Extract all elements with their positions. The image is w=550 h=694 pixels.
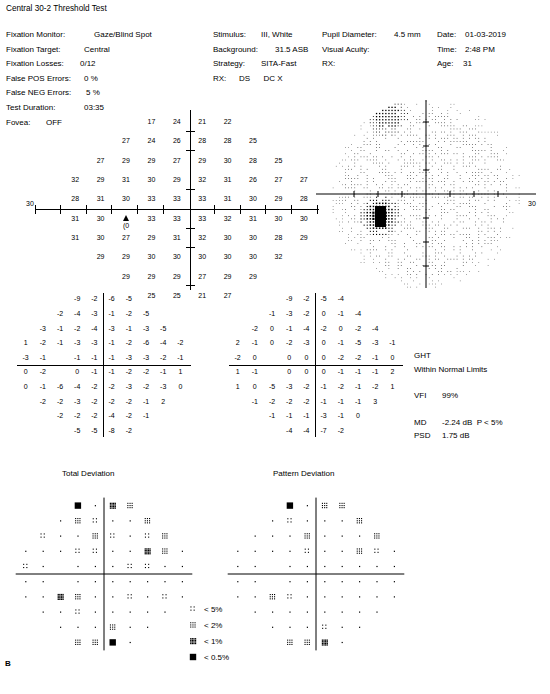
threshold-cell-r1-c4: 26 [169, 137, 185, 144]
param-left-label-3: False POS Errors: [6, 75, 71, 83]
td-cell-r3-c4: -3 [87, 339, 101, 346]
pd-cell-r2-c5: -2 [317, 325, 331, 332]
td-cell-r1-c5: -1 [105, 310, 119, 317]
param-mid-value-1: 31.5 ASB [275, 46, 308, 54]
pattern-deviation-label: Pattern Deviation [273, 470, 334, 478]
pd-cell-r1-c5: 0 [317, 310, 331, 317]
threshold-cell-r3-c7: 26 [245, 176, 261, 183]
td-cell-r7-c8: 2 [156, 398, 170, 405]
pd-cell-r6-c1: 0 [248, 383, 262, 390]
axis-tick-h-6 [214, 205, 215, 214]
td-cell-r3-c9: -2 [173, 339, 187, 346]
td-cell-r9-c4: -5 [87, 427, 101, 434]
td-cell-r6-c2: -6 [53, 383, 67, 390]
td-cell-r1-c3: -4 [70, 310, 84, 317]
td-cell-r5-c6: -2 [122, 368, 136, 375]
pd-cell-r7-c5: -1 [317, 398, 331, 405]
pd-cell-r2-c6: 0 [334, 325, 348, 332]
threshold-cell-r4-c5: 33 [194, 195, 210, 202]
td-cell-r3-c7: -6 [139, 339, 153, 346]
td-cell-r6-c4: -2 [87, 383, 101, 390]
td-cell-r8-c7: -1 [139, 412, 153, 419]
param-left-value-4: 5 % [86, 89, 100, 97]
td-cell-r3-c0: 1 [19, 339, 33, 346]
td-cell-r3-c5: -1 [105, 339, 119, 346]
pd-cell-r7-c2: -2 [265, 398, 279, 405]
threshold-cell-r5-c4: 33 [169, 215, 185, 222]
threshold-cell-r8-c7: 29 [245, 273, 261, 280]
td-cell-r1-c6: -2 [122, 310, 136, 317]
threshold-cell-r7-c2: 29 [118, 253, 134, 260]
pd-cell-r8-c6: -1 [334, 412, 348, 419]
pd-cell-r6-c9: 1 [385, 383, 399, 390]
threshold-cell-r3-c4: 29 [169, 176, 185, 183]
md-value: -2.24 dB P < 5% [442, 419, 503, 427]
threshold-cell-r6-c3: 29 [143, 234, 159, 241]
threshold-cell-r5-c5: 33 [194, 215, 210, 222]
threshold-cell-r7-c4: 30 [169, 253, 185, 260]
psd-label: PSD [414, 432, 430, 440]
threshold-cell-r2-c2: 29 [118, 157, 134, 164]
threshold-cell-r2-c4: 27 [169, 157, 185, 164]
threshold-cell-r5-c1: 30 [93, 215, 109, 222]
td-cell-r3-c2: -1 [53, 339, 67, 346]
param-mid-label-2: Strategy: [213, 60, 245, 68]
pd-cell-r2-c2: 0 [265, 325, 279, 332]
param-rb-label-1: Time: [437, 46, 457, 54]
legend-label-p1: < 1% [204, 638, 222, 646]
param-left-value-6: OFF [46, 119, 62, 127]
pd-cell-r9-c5: -7 [317, 427, 331, 434]
param-mid-label-0: Stimulus: [213, 31, 246, 39]
threshold-cell-r4-c8: 29 [270, 195, 286, 202]
td-cell-r4-c0: -3 [19, 354, 33, 361]
td-cell-r4-c6: -3 [122, 354, 136, 361]
threshold-cell-r4-c6: 31 [220, 195, 236, 202]
td-cell-r2-c4: -4 [87, 325, 101, 332]
td-cell-r0-c4: -2 [87, 295, 101, 302]
pd-cell-r6-c8: -2 [368, 383, 382, 390]
threshold-cell-r6-c6: 30 [220, 234, 236, 241]
threshold-cell-r1-c3: 24 [143, 137, 159, 144]
pd-cell-r8-c7: 0 [351, 412, 365, 419]
panel-letter: B [5, 660, 11, 668]
td-cell-r8-c3: -2 [70, 412, 84, 419]
td-cell-r2-c7: -3 [139, 325, 153, 332]
td-prob-svg [10, 484, 200, 659]
pd-cell-r3-c7: -5 [351, 339, 365, 346]
td-cell-r2-c2: -1 [53, 325, 67, 332]
pd-cell-r3-c0: 2 [231, 339, 245, 346]
axis-tick-v-2 [186, 189, 195, 190]
td-cell-r4-c8: -2 [156, 354, 170, 361]
pd-cell-r9-c4: -4 [299, 427, 313, 434]
td-cell-r8-c5: -4 [105, 412, 119, 419]
pd-cell-r6-c6: -2 [334, 383, 348, 390]
threshold-cell-r7-c8: 32 [270, 253, 286, 260]
threshold-cell-r3-c5: 32 [194, 176, 210, 183]
pd-cell-r3-c9: -1 [385, 339, 399, 346]
threshold-cell-r7-c7: 30 [245, 253, 261, 260]
td-cell-r7-c6: -2 [122, 398, 136, 405]
td-cell-r8-c2: -2 [53, 412, 67, 419]
threshold-cell-r6-c0: 31 [67, 234, 83, 241]
td-cell-r0-c5: -6 [105, 295, 119, 302]
pd-cell-r4-c6: -2 [334, 354, 348, 361]
td-cell-r9-c5: -8 [105, 427, 119, 434]
pd-cell-r8-c3: -1 [282, 412, 296, 419]
td-cell-r5-c5: -1 [105, 368, 119, 375]
td-cell-r4-c3: -1 [70, 354, 84, 361]
pd-cell-r5-c0: 1 [231, 368, 245, 375]
td-cell-r2-c3: -2 [70, 325, 84, 332]
td-cell-r1-c4: -3 [87, 310, 101, 317]
axis-tick-v-4 [186, 247, 195, 248]
pd-cell-r4-c0: -2 [231, 354, 245, 361]
pd-cell-r5-c7: -1 [351, 368, 365, 375]
pd-cell-r6-c0: 1 [231, 383, 245, 390]
td-cell-r9-c3: -5 [70, 427, 84, 434]
threshold-cell-r4-c4: 33 [169, 195, 185, 202]
threshold-cell-r3-c3: 30 [143, 176, 159, 183]
td-cell-r5-c4: -1 [87, 368, 101, 375]
td-cell-r6-c3: -4 [70, 383, 84, 390]
pd-cell-r3-c5: 0 [317, 339, 331, 346]
threshold-cell-r2-c5: 29 [194, 157, 210, 164]
pd-cell-r3-c1: -1 [248, 339, 262, 346]
